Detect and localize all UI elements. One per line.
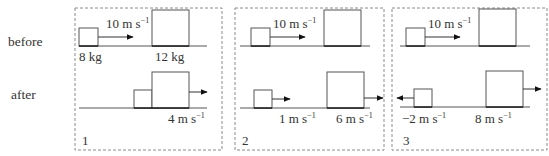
velocity-label: 10 m s−1 <box>106 16 149 31</box>
large-block <box>479 9 516 46</box>
large-block <box>327 72 364 108</box>
panel-number: 2 <box>242 133 249 148</box>
small-block <box>414 89 432 107</box>
large-block <box>486 71 523 107</box>
row-label-after: after <box>11 87 36 102</box>
velocity-label: 1 m s−1 <box>279 111 316 126</box>
large-mass-label: 12 kg <box>155 49 185 64</box>
large-block <box>152 72 189 108</box>
row-label-before: before <box>8 34 42 49</box>
velocity-label: 10 m s−1 <box>428 16 471 31</box>
small-mass-label: 8 kg <box>79 49 102 64</box>
velocity-label: 4 m s−1 <box>168 111 205 126</box>
small-block <box>254 90 272 108</box>
small-block <box>79 28 98 46</box>
small-block <box>251 28 270 46</box>
panel-number: 3 <box>403 133 410 148</box>
panel-1: 10 m s−1 8 kg 12 kg 4 m s−1 1 <box>75 8 222 150</box>
panel-3: 10 m s−1 −2 m s−1 8 m s−1 3 <box>392 8 547 150</box>
panel-number: 1 <box>82 133 89 148</box>
velocity-label: 8 m s−1 <box>475 111 512 126</box>
small-block <box>406 28 425 46</box>
velocity-label: 6 m s−1 <box>336 111 373 126</box>
velocity-label: 10 m s−1 <box>273 16 316 31</box>
large-block <box>152 10 189 46</box>
collision-diagram: before after 10 m s−1 8 kg 12 kg 4 m s−1… <box>0 0 549 156</box>
panel-2: 10 m s−1 1 m s−1 6 m s−1 2 <box>235 8 384 150</box>
small-block <box>134 90 152 108</box>
large-block <box>324 10 361 46</box>
velocity-label: −2 m s−1 <box>402 111 446 126</box>
